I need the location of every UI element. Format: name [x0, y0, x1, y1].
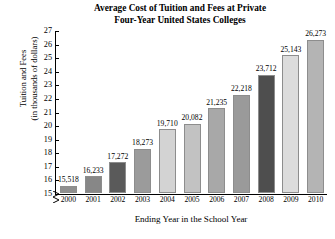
- bar-value-label-2006: 21,235: [206, 99, 227, 107]
- x-tick-label-2009: 2009: [283, 196, 298, 204]
- x-tick-label-2010: 2010: [308, 196, 323, 204]
- chart-title-line-2: Four-Year United States Colleges: [30, 15, 330, 27]
- x-tick-label-2006: 2006: [209, 196, 224, 204]
- bar-value-label-2007: 22,218: [231, 85, 252, 93]
- y-tick-label: 15: [44, 190, 52, 198]
- bar-value-label-2010: 26,273: [305, 30, 326, 38]
- bar-2008[interactable]: [258, 75, 275, 193]
- y-axis-title-line-2: (in thousands of dollars): [28, 4, 39, 154]
- chart-title: Average Cost of Tuition and Fees at Priv…: [30, 3, 330, 26]
- y-tick-label: 26: [44, 40, 52, 48]
- y-tick-label: 27: [44, 27, 52, 35]
- y-tick-label: 25: [44, 54, 52, 62]
- bar-value-label-2003: 18,273: [132, 139, 153, 147]
- bar-value-label-2000: 15,518: [58, 176, 79, 184]
- y-axis-title: Tuition and Fees (in thousands of dollar…: [18, 4, 39, 154]
- bar-2009[interactable]: [282, 55, 299, 193]
- bar-value-label-2005: 20,082: [182, 114, 203, 122]
- chart-figure: Average Cost of Tuition and Fees at Priv…: [0, 0, 335, 239]
- bar-2010[interactable]: [307, 40, 324, 193]
- chart-title-line-1: Average Cost of Tuition and Fees at Priv…: [30, 3, 330, 15]
- x-tick-label-2002: 2002: [110, 196, 125, 204]
- y-tick-label: 21: [44, 108, 52, 116]
- bar-2004[interactable]: [159, 129, 176, 193]
- y-tick-label: 22: [44, 95, 52, 103]
- x-tick-label-2005: 2005: [184, 196, 199, 204]
- x-tick-label-2001: 2001: [85, 196, 100, 204]
- bar-2000[interactable]: [60, 186, 77, 193]
- bar-2001[interactable]: [85, 176, 102, 193]
- bar-value-label-2009: 25,143: [280, 46, 301, 54]
- x-tick-label-2003: 2003: [135, 196, 150, 204]
- bar-value-label-2004: 19,710: [157, 120, 178, 128]
- x-axis-title: Ending Year in the School Year: [55, 214, 327, 225]
- y-tick-label: 23: [44, 81, 52, 89]
- plot-area: 15161718192021222324252627 15,518200016,…: [55, 31, 327, 194]
- y-tick-label: 18: [44, 149, 52, 157]
- bar-2003[interactable]: [134, 149, 151, 193]
- bar-value-label-2002: 17,272: [107, 153, 128, 161]
- y-tick-label: 16: [44, 176, 52, 184]
- x-tick-label-2004: 2004: [160, 196, 175, 204]
- y-tick-label: 19: [44, 136, 52, 144]
- x-tick-label-2007: 2007: [234, 196, 249, 204]
- bar-value-label-2001: 16,233: [83, 167, 104, 175]
- y-tick-label: 17: [44, 163, 52, 171]
- x-tick-label-2008: 2008: [259, 196, 274, 204]
- bar-2005[interactable]: [184, 124, 201, 193]
- y-tick-label: 24: [44, 68, 52, 76]
- y-axis-title-line-1: Tuition and Fees: [18, 4, 29, 154]
- y-tick-label: 20: [44, 122, 52, 130]
- bar-series: 15,518200016,233200117,272200218,2732003…: [56, 31, 327, 193]
- bar-2007[interactable]: [233, 95, 250, 193]
- bar-2002[interactable]: [109, 162, 126, 193]
- bar-value-label-2008: 23,712: [256, 65, 277, 73]
- x-tick-label-2000: 2000: [61, 196, 76, 204]
- bar-2006[interactable]: [208, 108, 225, 193]
